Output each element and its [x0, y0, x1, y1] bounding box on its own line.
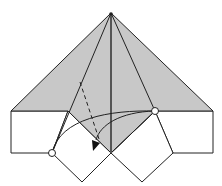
- reference-point-left: [49, 150, 56, 157]
- origami-diagram: [0, 0, 222, 186]
- reference-point-right: [152, 108, 159, 115]
- apex-point: [109, 12, 113, 16]
